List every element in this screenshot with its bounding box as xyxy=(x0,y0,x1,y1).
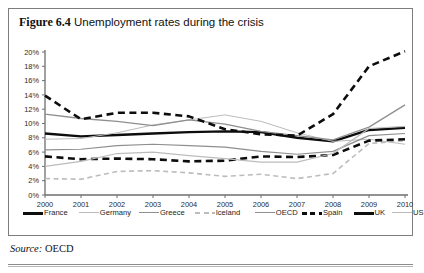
unemployment-line-chart: 0%2%4%6%8%10%12%14%16%18%20%200020012002… xyxy=(9,9,414,235)
y-tick-label: 0% xyxy=(28,191,39,200)
legend-swatch-us xyxy=(392,212,412,213)
legend-swatch-uk xyxy=(354,212,374,215)
y-tick-label: 16% xyxy=(24,76,39,85)
y-tick-label: 8% xyxy=(28,133,39,142)
y-tick-label: 2% xyxy=(28,176,39,185)
legend-label: Iceland xyxy=(216,208,241,217)
y-tick-label: 18% xyxy=(24,62,39,71)
chart-plot-area: 0%2%4%6%8%10%12%14%16%18%20%200020012002… xyxy=(9,9,414,235)
legend-label: France xyxy=(44,208,68,217)
legend-swatch-iceland xyxy=(195,212,215,214)
legend-swatch-oecd xyxy=(255,212,275,213)
series-line-spain xyxy=(45,51,405,135)
y-tick-label: 20% xyxy=(24,48,39,57)
source-note: Source: OECD xyxy=(10,243,73,254)
figure-panel: Figure 6.4 Unemployment rates during the… xyxy=(8,8,413,236)
legend-label: US xyxy=(413,208,424,217)
y-tick-label: 12% xyxy=(24,105,39,114)
legend-label: UK xyxy=(375,208,386,217)
legend-label: Spain xyxy=(323,208,342,217)
footer-rule-bottom xyxy=(8,266,413,267)
legend-swatch-france xyxy=(23,212,43,215)
source-label: Source: xyxy=(10,243,42,254)
y-tick-label: 10% xyxy=(24,119,39,128)
legend-label: Germany xyxy=(100,208,131,217)
legend-label: OECD xyxy=(276,208,298,217)
legend-swatch-greece xyxy=(139,212,159,213)
source-value: OECD xyxy=(45,243,74,254)
chart-legend: FranceGermanyGreeceIcelandOECDSpainUKUS xyxy=(9,205,414,231)
series-line-iceland xyxy=(45,141,405,180)
legend-swatch-spain xyxy=(302,212,322,215)
y-tick-label: 6% xyxy=(28,148,39,157)
footer-rule-top xyxy=(8,264,413,265)
y-tick-label: 14% xyxy=(24,91,39,100)
legend-label: Greece xyxy=(160,208,185,217)
legend-swatch-germany xyxy=(79,212,99,213)
y-tick-label: 4% xyxy=(28,162,39,171)
